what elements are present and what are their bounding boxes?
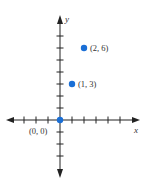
y-axis-up-arrow-icon xyxy=(57,15,63,24)
x-axis-left-arrow-icon xyxy=(6,117,14,123)
y-axis-label: y xyxy=(64,14,69,24)
data-point xyxy=(69,81,75,87)
data-point xyxy=(57,117,63,123)
data-point-label: (2, 6) xyxy=(90,43,109,53)
tick-marks xyxy=(24,36,120,156)
data-point xyxy=(81,45,87,51)
data-point-label: (0, 0) xyxy=(29,126,48,136)
x-axis-label: x xyxy=(133,125,138,135)
y-axis-down-arrow-icon xyxy=(57,169,63,178)
data-point-label: (1, 3) xyxy=(78,79,97,89)
coordinate-plane: x y (0, 0)(1, 3)(2, 6) xyxy=(0,0,143,187)
axes xyxy=(6,15,140,178)
data-points: (0, 0)(1, 3)(2, 6) xyxy=(29,43,109,136)
x-axis-right-arrow-icon xyxy=(132,117,140,123)
